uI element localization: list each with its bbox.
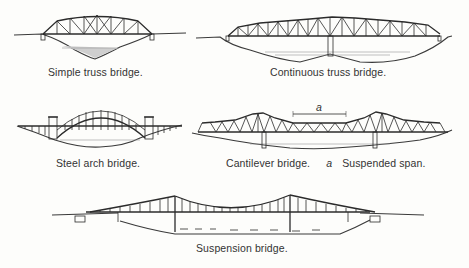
- cantilever-caption-text: Cantilever bridge.: [226, 157, 310, 169]
- continuous-truss-caption: Continuous truss bridge.: [270, 66, 386, 78]
- continuous-truss-bridge-figure: Continuous truss bridge.: [190, 0, 469, 90]
- steel-arch-caption: Steel arch bridge.: [56, 157, 140, 169]
- steel-arch-bridge-drawing: [0, 100, 200, 200]
- cantilever-caption: Cantilever bridge. a Suspended span.: [226, 157, 425, 169]
- cantilever-annotation-text: Suspended span.: [342, 157, 425, 169]
- cantilever-bridge-figure: a Cantilever bridge. a Suspended span.: [190, 100, 469, 200]
- cantilever-annotation-letter: a: [326, 157, 332, 169]
- suspension-caption: Suspension bridge.: [196, 242, 288, 254]
- span-marker-label: a: [316, 101, 322, 113]
- simple-truss-bridge-figure: Simple truss bridge.: [0, 0, 200, 90]
- simple-truss-caption: Simple truss bridge.: [48, 66, 143, 78]
- suspension-bridge-drawing: [30, 190, 450, 268]
- cantilever-bridge-drawing: [190, 100, 469, 200]
- suspension-bridge-figure: Suspension bridge.: [30, 190, 450, 268]
- steel-arch-bridge-figure: Steel arch bridge.: [0, 100, 200, 200]
